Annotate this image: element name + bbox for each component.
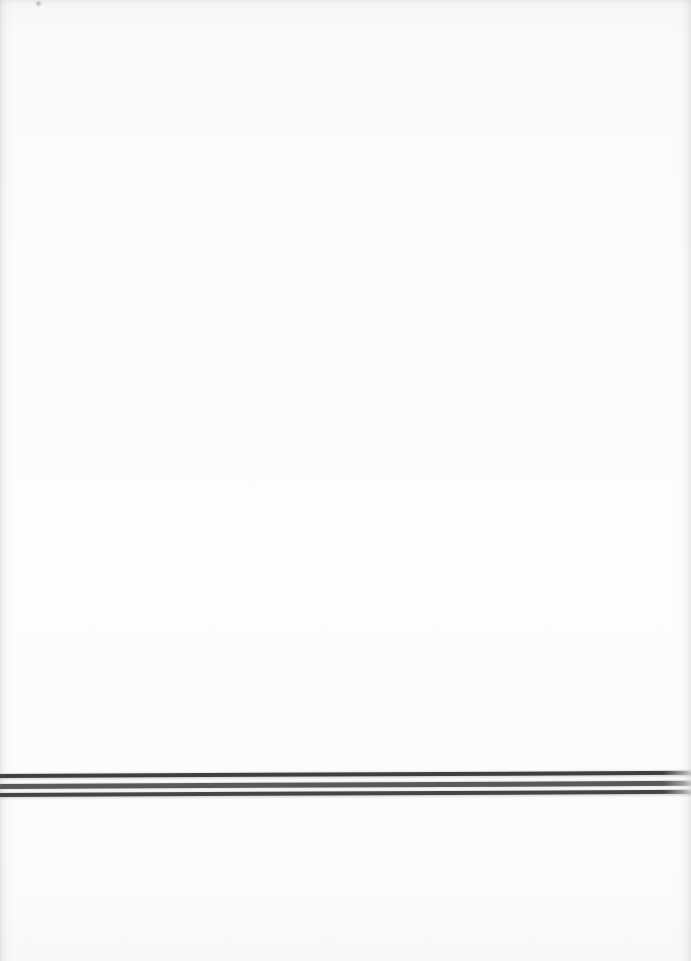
scanned-page [0, 0, 691, 961]
scan-speck-artifact [35, 0, 42, 7]
scan-edge-shadow-left [0, 0, 14, 961]
scan-edge-shadow-right [675, 0, 691, 961]
paper-grain-texture [0, 0, 691, 961]
scan-edge-shadow-top [0, 0, 691, 10]
